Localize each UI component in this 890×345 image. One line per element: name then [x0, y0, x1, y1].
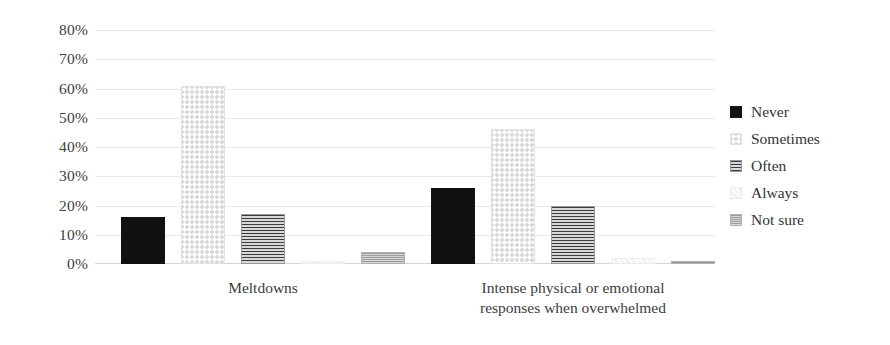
legend-label-often: Often — [751, 158, 786, 174]
legend-swatch-often-icon — [730, 160, 742, 172]
bar-not-sure-meltdowns — [361, 252, 405, 264]
y-axis-tick: 40% — [0, 139, 88, 155]
bar-group-meltdowns — [121, 30, 405, 264]
legend-swatch-never-icon — [730, 106, 742, 118]
bar-sometimes-intense-responses — [491, 129, 535, 264]
legend-label-sometimes: Sometimes — [751, 131, 820, 147]
y-axis: 80% 70% 60% 50% 40% 30% 20% 10% 0% — [0, 30, 88, 264]
legend-swatch-always-icon — [730, 187, 742, 199]
legend-label-never: Never — [751, 104, 789, 120]
x-axis-label-meltdowns: Meltdowns — [121, 278, 405, 298]
bar-group-intense-responses — [431, 30, 715, 264]
bar-never-meltdowns — [121, 217, 165, 264]
legend-swatch-not-sure-icon — [730, 214, 742, 226]
legend-item-always[interactable]: Always — [730, 179, 820, 206]
y-axis-tick: 0% — [0, 256, 88, 272]
bar-chart: 80% 70% 60% 50% 40% 30% 20% 10% 0% — [0, 0, 890, 345]
x-axis-label-line: Meltdowns — [121, 278, 405, 298]
legend-label-not-sure: Not sure — [751, 212, 804, 228]
x-axis-label-line: responses when overwhelmed — [431, 298, 715, 318]
y-axis-tick: 70% — [0, 52, 88, 68]
legend-item-sometimes[interactable]: Sometimes — [730, 125, 820, 152]
bar-always-meltdowns — [301, 261, 345, 264]
legend-item-often[interactable]: Often — [730, 152, 820, 179]
x-axis-label-intense-responses: Intense physical or emotional responses … — [431, 278, 715, 318]
x-axis-label-line: Intense physical or emotional — [431, 278, 715, 298]
y-axis-tick: 60% — [0, 81, 88, 97]
bar-always-intense-responses — [611, 258, 655, 264]
y-axis-tick: 20% — [0, 198, 88, 214]
legend-item-never[interactable]: Never — [730, 98, 820, 125]
y-axis-tick: 80% — [0, 22, 88, 38]
legend-label-always: Always — [751, 185, 798, 201]
bar-never-intense-responses — [431, 188, 475, 264]
bar-not-sure-intense-responses — [671, 261, 715, 264]
plot-area — [95, 30, 715, 264]
legend-item-not-sure[interactable]: Not sure — [730, 206, 820, 233]
y-axis-tick: 50% — [0, 110, 88, 126]
legend: Never Sometimes Often Always Not sure — [730, 98, 820, 233]
bar-often-meltdowns — [241, 214, 285, 264]
bar-sometimes-meltdowns — [181, 86, 225, 264]
y-axis-tick: 10% — [0, 227, 88, 243]
bar-often-intense-responses — [551, 206, 595, 265]
legend-swatch-sometimes-icon — [730, 133, 742, 145]
y-axis-tick: 30% — [0, 169, 88, 185]
